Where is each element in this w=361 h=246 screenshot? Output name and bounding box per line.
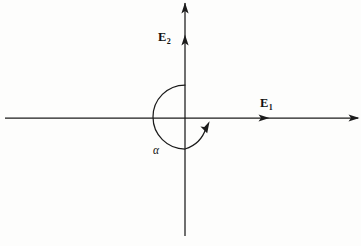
vertical-axis bbox=[181, 3, 188, 237]
angle-arc-path bbox=[153, 85, 206, 149]
y-axis-label: E2 bbox=[158, 31, 171, 44]
angle-arc-group bbox=[153, 85, 210, 149]
x-axis-label: E1 bbox=[260, 97, 273, 110]
figure-root: E1 E2 α bbox=[0, 0, 361, 246]
angle-label-alpha: α bbox=[153, 145, 159, 157]
horizontal-axis bbox=[5, 114, 360, 121]
x-axis-label-subscript: 1 bbox=[269, 103, 273, 112]
x-axis-label-symbol: E bbox=[260, 96, 269, 110]
y-axis-label-symbol: E bbox=[158, 30, 167, 44]
axes-diagram-canvas bbox=[0, 0, 361, 246]
y-axis-label-subscript: 2 bbox=[167, 37, 171, 46]
